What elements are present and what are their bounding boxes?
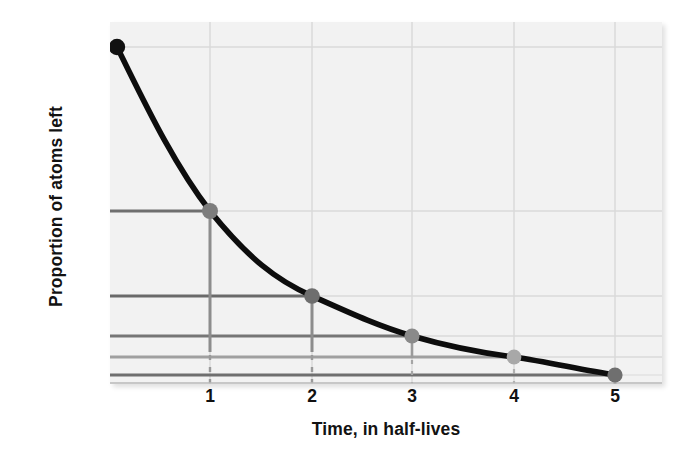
x-tick-label-2: 2	[292, 386, 332, 407]
plot-svg	[110, 22, 662, 384]
x-tick-label-3: 3	[392, 386, 432, 407]
plot-area	[110, 22, 662, 384]
y-axis-title: Proportion of atoms left	[46, 57, 67, 357]
x-tick-label-1: 1	[190, 386, 230, 407]
data-point-5	[607, 367, 622, 382]
data-point-2	[304, 288, 320, 304]
x-axis-title: Time, in half-lives	[110, 419, 662, 440]
horizontal-guide-lines	[110, 211, 615, 375]
data-point-3	[404, 328, 419, 343]
data-point-4	[507, 350, 522, 365]
data-point-1	[202, 203, 218, 219]
x-tick-label-5: 5	[595, 386, 635, 407]
x-tick-label-4: 4	[494, 386, 534, 407]
decay-chart-figure: Proportion of atoms left Time, in half-l…	[0, 0, 690, 463]
